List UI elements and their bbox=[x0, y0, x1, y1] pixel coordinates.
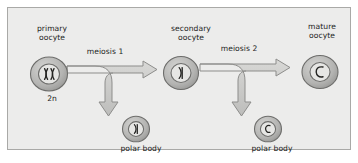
cell-polar-body-2 bbox=[253, 114, 283, 144]
arrow-meiosis-1 bbox=[65, 58, 169, 120]
label-secondary-oocyte: secondary oocyte bbox=[146, 24, 236, 43]
nucleus bbox=[39, 64, 60, 84]
label-meiosis-1: meiosis 1 bbox=[70, 47, 140, 56]
cell-primary-oocyte bbox=[29, 54, 69, 94]
cell-secondary-oocyte bbox=[162, 54, 200, 92]
label-mature-oocyte: mature oocyte bbox=[286, 22, 358, 41]
cell-polar-body-1 bbox=[121, 114, 151, 144]
label-polar-body-2: polar body bbox=[236, 144, 308, 153]
nucleus bbox=[260, 122, 275, 137]
diagram-panel: primary oocyte secondary oocyte mature o… bbox=[7, 7, 351, 150]
cell-mature-oocyte bbox=[300, 52, 340, 92]
label-polar-body-1: polar body bbox=[106, 144, 176, 153]
oogenesis-diagram: primary oocyte secondary oocyte mature o… bbox=[0, 0, 358, 163]
label-primary-oocyte: primary oocyte bbox=[16, 24, 88, 43]
label-meiosis-2: meiosis 2 bbox=[204, 44, 274, 53]
arrow-meiosis-2 bbox=[198, 56, 302, 120]
nucleus bbox=[310, 63, 330, 82]
